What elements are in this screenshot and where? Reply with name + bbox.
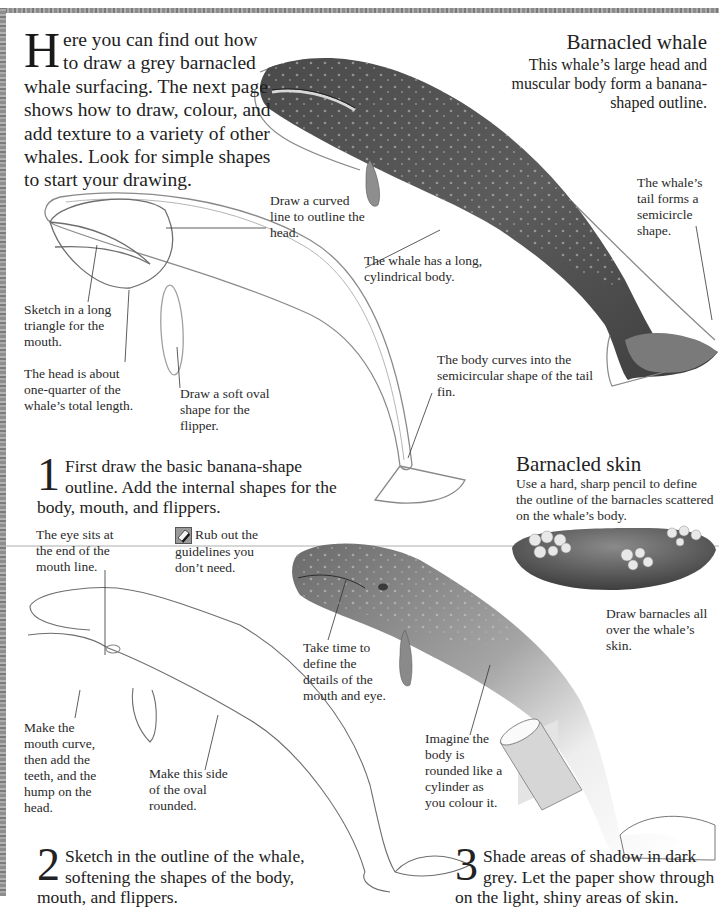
step-3-number: 3 [455, 846, 478, 884]
leader-oval-rounded [205, 715, 218, 770]
barnacled-whale-description: This whale’s large head and muscular bod… [477, 55, 707, 113]
leader-mouth-curve [75, 690, 80, 718]
step-3: 3Shade areas of shadow in dark grey. Let… [455, 846, 717, 908]
caption-oval-rounded: Make this side of the oval rounded. [149, 766, 239, 814]
step-1: 1First draw the basic banana-shape outli… [37, 456, 347, 518]
caption-eye-position: The eye sits at the end of the mouth lin… [36, 527, 126, 575]
eraser-icon [175, 527, 192, 544]
intro-text: ere you can find out how to draw a grey … [24, 29, 271, 190]
caption-take-time: Take time to define the details of the m… [303, 640, 388, 704]
barnacled-skin-title: Barnacled skin [516, 452, 641, 476]
barnacle-skin-swatch [512, 526, 716, 590]
caption-oval-flipper: Draw a soft oval shape for the flipper. [180, 386, 270, 434]
step-2-text: Sketch in the outline of the whale, soft… [37, 846, 305, 907]
step-1-number: 1 [37, 456, 60, 494]
caption-mouth-triangle: Sketch in a long triangle for the mouth. [24, 302, 114, 350]
caption-body-curves: The body curves into the semicircular sh… [437, 352, 597, 400]
caption-long-body: The whale has a long, cylindrical body. [364, 253, 504, 285]
barnacled-skin-description: Use a hard, sharp pencil to define the o… [516, 476, 716, 524]
step-3-text: Shade areas of shadow in dark grey. Let … [455, 846, 714, 907]
step-2: 2Sketch in the outline of the whale, sof… [37, 846, 327, 908]
step-1-text: First draw the basic banana-shape outlin… [37, 456, 337, 517]
caption-tail-semicircle: The whale’s tail forms a semicircle shap… [637, 175, 717, 239]
caption-head-quarter: The head is about one-quarter of the wha… [24, 366, 144, 414]
caption-curved-line-head: Draw a curved line to outline the head. [270, 193, 370, 241]
intro-dropcap: H [24, 30, 60, 70]
step-2-number: 2 [37, 846, 60, 884]
intro-paragraph: Here you can find out how to draw a grey… [24, 28, 274, 192]
barnacled-whale-title: Barnacled whale [566, 30, 707, 54]
caption-rub-out: Rub out the guidelines you don’t need. [175, 527, 270, 576]
caption-draw-barnacles: Draw barnacles all over the whale’s skin… [606, 606, 716, 654]
caption-mouth-curve: Make the mouth curve, then add the teeth… [24, 720, 104, 816]
caption-imagine-cylinder: Imagine the body is rounded like a cylin… [425, 731, 505, 811]
